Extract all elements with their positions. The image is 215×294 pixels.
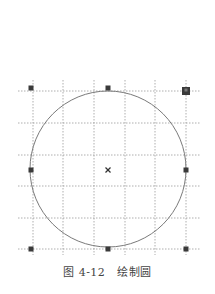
handle-middle-right[interactable] [184,168,189,173]
handle-top-middle[interactable] [106,86,111,91]
handle-bottom-middle[interactable] [106,247,111,252]
drawn-circle[interactable] [30,91,186,247]
handle-bottom-right[interactable] [184,247,189,252]
handle-bottom-left[interactable] [29,247,34,252]
dotted-grid [18,80,200,255]
drawing-canvas [0,0,215,294]
figure-caption: 图 4-12 绘制圆 [0,263,215,279]
handle-middle-left[interactable] [29,168,34,173]
caption-title: 绘制圆 [117,266,152,279]
handle-inner-mark [185,89,188,92]
caption-number: 图 4-12 [63,266,105,279]
center-x-mark-icon [106,168,111,173]
handle-top-left[interactable] [29,86,34,91]
